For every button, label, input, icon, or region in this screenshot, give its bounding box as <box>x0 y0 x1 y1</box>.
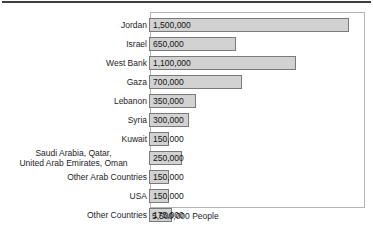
bar-value-label: 150,000 <box>150 134 184 144</box>
bar[interactable]: 700,000 <box>149 75 242 89</box>
bar-track: 700,000 <box>147 73 373 92</box>
bar-row-label: Other Arab Countries <box>0 173 147 182</box>
bar-row-label: Lebanon <box>0 97 147 106</box>
bar[interactable]: 650,000 <box>149 37 236 51</box>
bar-value-label: 650,000 <box>150 39 184 49</box>
bar-row-label: West Bank <box>0 59 147 68</box>
bar[interactable]: 300,000 <box>149 113 189 127</box>
bar-row: Jordan1,500,000 <box>0 16 373 35</box>
bar-row: Lebanon350,000 <box>0 92 373 111</box>
bar-row-label: Israel <box>0 40 147 49</box>
bar-value-label: 150,000 <box>150 172 184 182</box>
chart-caption: 5,500,000 People <box>152 211 219 221</box>
bar-row-label: Jordan <box>0 21 147 30</box>
bar-chart-figure: Jordan1,500,000Israel650,000West Bank1,1… <box>0 0 373 234</box>
bar-value-label: 150,000 <box>150 191 184 201</box>
bar-row-label: Kuwait <box>0 135 147 144</box>
bar-value-label: 1,100,000 <box>150 58 191 68</box>
bar-row: Syria300,000 <box>0 111 373 130</box>
bar-track: 150,000 <box>147 168 373 187</box>
bar-row-label: Gaza <box>0 78 147 87</box>
bar-track: 250,000 <box>147 149 373 168</box>
bar[interactable]: 150,000 <box>149 170 169 184</box>
bar-row-label: USA <box>0 192 147 201</box>
bar[interactable]: 150,000 <box>149 189 169 203</box>
bar-track: 300,000 <box>147 111 373 130</box>
bar-row: Other Arab Countries150,000 <box>0 168 373 187</box>
bar-row: Gaza700,000 <box>0 73 373 92</box>
bar-track: 1,500,000 <box>147 16 373 35</box>
bar-rows: Jordan1,500,000Israel650,000West Bank1,1… <box>0 16 373 225</box>
bar-value-label: 350,000 <box>150 96 184 106</box>
bar-track: 150,000 <box>147 130 373 149</box>
bar-track: 150,000 <box>147 187 373 206</box>
bar-row-label: Other Countries <box>0 211 147 220</box>
bar-row-label: Saudi Arabia, Qatar, United Arab Emirate… <box>0 149 147 167</box>
bar[interactable]: 1,100,000 <box>149 56 296 70</box>
bar-row: Israel650,000 <box>0 35 373 54</box>
bar-row: USA150,000 <box>0 187 373 206</box>
bar-row-label: Syria <box>0 116 147 125</box>
bar-value-label: 700,000 <box>150 77 184 87</box>
bar-track: 350,000 <box>147 92 373 111</box>
bar-track: 650,000 <box>147 35 373 54</box>
bar-track: 1,100,000 <box>147 54 373 73</box>
bar-row: Saudi Arabia, Qatar, United Arab Emirate… <box>0 149 373 168</box>
bar-value-label: 1,500,000 <box>150 20 191 30</box>
bar-row: Kuwait150,000 <box>0 130 373 149</box>
header-rule <box>2 1 371 3</box>
bar-value-label: 300,000 <box>150 115 184 125</box>
bar-value-label: 250,000 <box>150 153 184 163</box>
bar[interactable]: 350,000 <box>149 94 196 108</box>
bar[interactable]: 150,000 <box>149 132 169 146</box>
bar-row: West Bank1,100,000 <box>0 54 373 73</box>
bar[interactable]: 250,000 <box>149 151 182 165</box>
bar[interactable]: 1,500,000 <box>149 18 349 32</box>
